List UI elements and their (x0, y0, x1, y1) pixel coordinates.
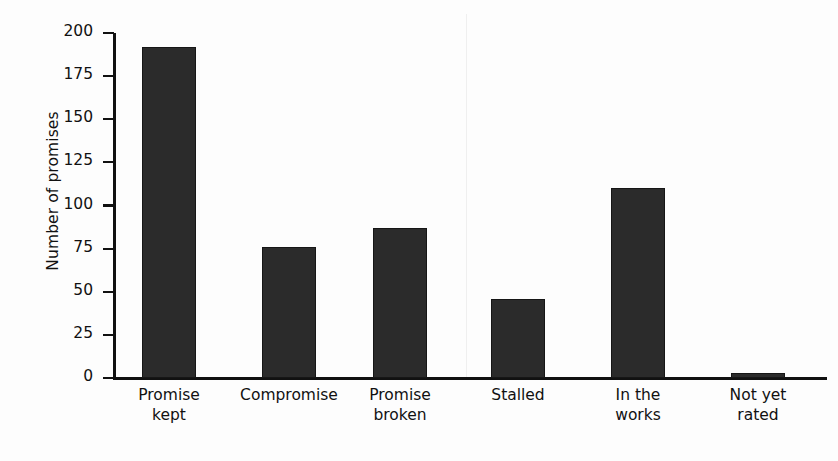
bar-not-yet-rated (731, 373, 785, 378)
y-tick-label-125: 125 (23, 153, 93, 169)
plot-area: 0255075100125150175200 PromisekeptCompro… (0, 0, 838, 461)
y-tick-25 (103, 334, 114, 336)
bar-in-the-works (611, 188, 665, 378)
y-tick-0 (103, 377, 114, 379)
y-tick-175 (103, 75, 114, 77)
y-tick-125 (103, 161, 114, 163)
y-tick-label-175: 175 (23, 67, 93, 83)
x-label-not-yet-rated: Not yetrated (683, 386, 833, 426)
y-tick-label-50: 50 (23, 283, 93, 299)
y-tick-label-150: 150 (23, 110, 93, 126)
bar-chart: Number of promises 025507510012515017520… (0, 0, 838, 461)
y-tick-label-200: 200 (23, 24, 93, 40)
y-tick-label-75: 75 (23, 240, 93, 256)
y-tick-label-100: 100 (23, 197, 93, 213)
y-tick-150 (103, 118, 114, 120)
x-axis-line (113, 377, 827, 380)
y-tick-label-25: 25 (23, 326, 93, 342)
bar-stalled (491, 299, 545, 378)
bar-compromise (262, 247, 316, 378)
y-tick-200 (103, 32, 114, 34)
y-tick-50 (103, 291, 114, 293)
y-tick-label-0: 0 (23, 369, 93, 385)
y-tick-100 (103, 204, 114, 206)
y-tick-75 (103, 248, 114, 250)
bar-promise-kept (142, 47, 196, 378)
bar-promise-broken (373, 228, 427, 378)
